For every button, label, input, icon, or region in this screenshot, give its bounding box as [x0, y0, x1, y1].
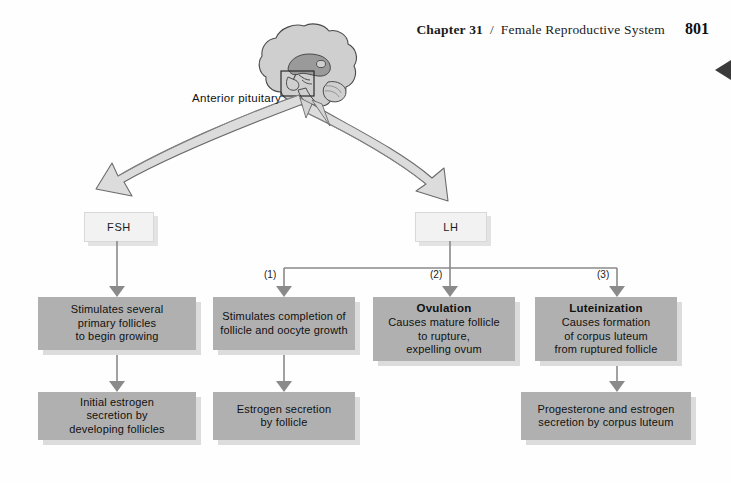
content-box-header: Ovulation [417, 302, 472, 316]
branch-number-2: (2) [430, 269, 442, 280]
running-head: Chapter 31 / Female Reproductive System … [416, 20, 709, 38]
content-line: Causes mature follicle [388, 316, 500, 330]
content-line: developing follicles [69, 423, 164, 437]
content-box-lh-ovulation[interactable]: Ovulation Causes mature follicle to rupt… [373, 297, 515, 361]
content-line: Stimulates several [71, 303, 164, 317]
running-head-title: Female Reproductive System [501, 22, 665, 38]
content-line: of corpus luteum [564, 330, 648, 344]
connector-col2-to-secondary [276, 350, 292, 392]
page-edge-marker-icon [713, 60, 731, 80]
content-box-lh-follicle-growth[interactable]: Stimulates completion of follicle and oo… [213, 297, 355, 350]
branch-number-3: (3) [597, 269, 609, 280]
content-line: to rupture, [418, 330, 470, 344]
page-number: 801 [685, 20, 709, 38]
content-box-fsh-follicles[interactable]: Stimulates several primary follicles to … [38, 297, 196, 350]
content-line: Estrogen secretion [237, 403, 331, 417]
content-line: Initial estrogen [80, 396, 154, 410]
hormone-box-fsh[interactable]: FSH [84, 212, 154, 242]
content-box-estrogen-secretion[interactable]: Estrogen secretion by follicle [213, 392, 355, 440]
content-line: expelling ovum [406, 343, 481, 357]
content-box-initial-estrogen[interactable]: Initial estrogen secretion by developing… [38, 392, 196, 440]
content-line: Causes formation [562, 316, 651, 330]
content-box-header: Luteinization [569, 302, 643, 316]
content-line: Stimulates completion of [222, 310, 345, 324]
page-canvas: Chapter 31 / Female Reproductive System … [0, 0, 731, 483]
connector-fsh-to-col1 [109, 241, 125, 297]
connector-col1-to-secondary [109, 350, 125, 392]
content-line: by follicle [261, 416, 308, 430]
connector-col4-to-secondary [609, 361, 625, 392]
running-head-chapter: Chapter 31 [416, 22, 483, 38]
content-line: to begin growing [75, 330, 158, 344]
content-line: Progesterone and estrogen [537, 403, 674, 417]
connector-lh-bus [276, 241, 625, 297]
content-box-lh-luteinization[interactable]: Luteinization Causes formation of corpus… [535, 297, 677, 361]
hormone-box-fsh-label: FSH [107, 221, 131, 233]
branch-number-1: (1) [264, 269, 276, 280]
hormone-box-lh-label: LH [443, 221, 458, 233]
hormone-box-lh[interactable]: LH [415, 212, 487, 242]
running-head-separator: / [490, 22, 494, 38]
content-line: primary follicles [78, 317, 156, 331]
content-line: follicle and oocyte growth [220, 324, 347, 338]
content-line: secretion by corpus luteum [538, 416, 673, 430]
content-line: from ruptured follicle [555, 343, 658, 357]
brain-illustration [236, 22, 366, 122]
content-box-progesterone-estrogen[interactable]: Progesterone and estrogen secretion by c… [521, 392, 691, 440]
content-line: secretion by [86, 409, 147, 423]
anterior-pituitary-label: Anterior pituitary [192, 92, 281, 104]
